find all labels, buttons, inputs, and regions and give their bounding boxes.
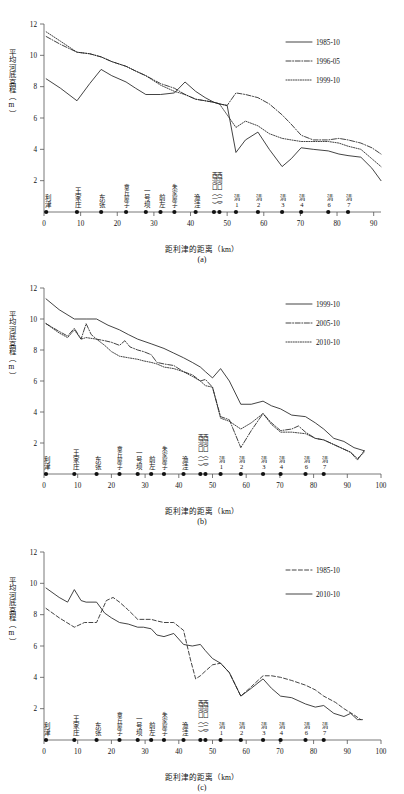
panel-a-plot-area: 平均河底高程（m） 246810120102030405060708090198… [0,0,404,266]
svg-text:70: 70 [276,482,284,490]
panel-c-caption: (c) [0,783,404,792]
svg-text:1999-10: 1999-10 [316,77,340,85]
svg-text:0: 0 [42,220,46,228]
svg-text:2010-10: 2010-10 [316,591,340,599]
svg-text:2: 2 [33,705,37,713]
svg-text:4: 4 [33,409,37,417]
svg-text:0: 0 [42,482,46,490]
svg-text:10: 10 [77,220,85,228]
svg-text:70: 70 [297,220,305,228]
svg-text:1985-10: 1985-10 [316,567,340,575]
svg-text:60: 60 [243,482,251,490]
svg-text:30: 30 [142,482,150,490]
svg-text:8: 8 [33,611,37,619]
panel-b: 平均河底高程（m） 246810120102030405060708090100… [0,266,404,528]
svg-text:10: 10 [30,316,38,324]
panel-a-x-axis-title: 距利津的距离（km） [0,243,404,254]
svg-text:40: 40 [175,748,183,756]
svg-text:8: 8 [33,83,37,91]
svg-text:60: 60 [260,220,268,228]
svg-text:4: 4 [33,674,37,682]
panel-a-chart: 2468101201020304050607080901985-101996-0… [0,0,404,266]
svg-text:0: 0 [42,748,46,756]
svg-text:2010-10: 2010-10 [316,339,340,347]
panel-c: 平均河底高程（m） 246810120102030405060708090100… [0,528,404,794]
svg-text:1999-10: 1999-10 [316,301,340,309]
svg-text:20: 20 [114,220,122,228]
svg-text:40: 40 [175,482,183,490]
svg-text:10: 10 [30,52,38,60]
svg-text:50: 50 [209,748,217,756]
panel-c-chart: 2468101201020304050607080901001985-10201… [0,528,404,794]
svg-text:2: 2 [33,440,37,448]
svg-text:80: 80 [333,220,341,228]
svg-text:2005-10: 2005-10 [316,320,340,328]
svg-text:30: 30 [150,220,158,228]
svg-text:100: 100 [376,748,387,756]
svg-text:4: 4 [33,146,37,154]
svg-text:100: 100 [376,482,387,490]
svg-text:90: 90 [344,748,352,756]
svg-text:6: 6 [33,643,37,651]
svg-text:60: 60 [243,748,251,756]
svg-text:10: 10 [74,748,82,756]
svg-text:90: 90 [370,220,378,228]
panel-a-caption: (a) [0,255,404,264]
svg-text:80: 80 [310,748,318,756]
svg-text:20: 20 [108,748,116,756]
svg-text:6: 6 [33,115,37,123]
panel-b-plot-area: 平均河底高程（m） 246810120102030405060708090100… [0,266,404,528]
svg-text:30: 30 [142,748,150,756]
svg-text:1985-10: 1985-10 [316,39,340,47]
svg-text:10: 10 [74,482,82,490]
svg-text:20: 20 [108,482,116,490]
svg-text:2: 2 [33,177,37,185]
panel-b-chart: 2468101201020304050607080901001999-10200… [0,266,404,528]
panel-c-x-axis-title: 距利津的距离（km） [0,771,404,782]
svg-text:90: 90 [344,482,352,490]
svg-text:50: 50 [224,220,232,228]
svg-text:70: 70 [276,748,284,756]
svg-text:80: 80 [310,482,318,490]
panel-c-plot-area: 平均河底高程（m） 246810120102030405060708090100… [0,528,404,794]
panel-a: 平均河底高程（m） 246810120102030405060708090198… [0,0,404,266]
svg-text:8: 8 [33,347,37,355]
svg-text:40: 40 [187,220,195,228]
panel-b-x-axis-title: 距利津的距离（km） [0,505,404,516]
svg-text:6: 6 [33,378,37,386]
svg-text:12: 12 [30,549,38,557]
svg-text:12: 12 [30,21,38,29]
svg-text:12: 12 [30,285,38,293]
panel-b-caption: (b) [0,517,404,526]
svg-text:1996-05: 1996-05 [316,58,340,66]
svg-text:10: 10 [30,580,38,588]
svg-text:50: 50 [209,482,217,490]
figure-riverbed-elevation-profiles: 平均河底高程（m） 246810120102030405060708090198… [0,0,404,794]
